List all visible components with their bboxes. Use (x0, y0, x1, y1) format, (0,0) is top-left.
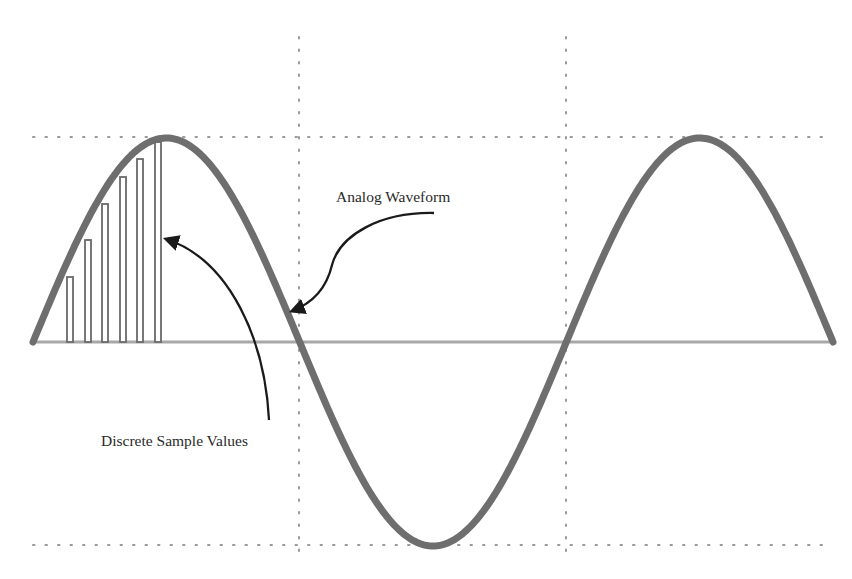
sample-bar (137, 159, 143, 342)
grid-lines (33, 37, 833, 553)
analog-waveform-label: Analog Waveform (336, 188, 450, 205)
sample-bar (85, 240, 91, 342)
sample-values-arrow (166, 239, 269, 420)
sample-bar (67, 277, 73, 342)
sampling-diagram: Analog Waveform Discrete Sample Values (0, 0, 852, 579)
analog-waveform-arrow (292, 213, 434, 311)
discrete-sample-values-label: Discrete Sample Values (101, 432, 248, 449)
sample-bar (155, 142, 161, 342)
sample-bar (120, 177, 126, 342)
sample-bar (102, 204, 108, 342)
